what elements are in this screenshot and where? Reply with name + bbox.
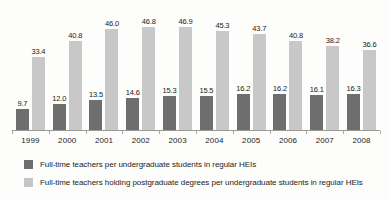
bar-value-label: 36.6 xyxy=(363,40,377,49)
bar-column: 33.4 xyxy=(32,6,45,130)
bar-value-label: 16.3 xyxy=(347,84,361,93)
bar-value-label: 16.2 xyxy=(273,84,287,93)
bar-value-label: 46.0 xyxy=(105,19,119,28)
legend-item-label: Full-time teachers holding postgraduate … xyxy=(40,178,363,187)
x-axis-tick-labels: 1999200020012002200320042005200620072008 xyxy=(12,134,380,148)
bar-group: 16.138.2 xyxy=(306,6,343,130)
chart-legend: Full-time teachers per undergraduate stu… xyxy=(24,155,384,191)
bar-value-label: 12.0 xyxy=(52,94,66,103)
bar-group: 12.040.8 xyxy=(49,6,86,130)
bar-group: 13.546.0 xyxy=(86,6,123,130)
bar[interactable] xyxy=(347,94,360,130)
x-axis-tick-label: 2001 xyxy=(86,134,123,148)
bar-column: 16.1 xyxy=(310,6,323,130)
bar[interactable] xyxy=(142,27,155,130)
x-axis-tick-label: 2004 xyxy=(196,134,233,148)
bar[interactable] xyxy=(253,34,266,130)
bar[interactable] xyxy=(126,98,139,130)
bar[interactable] xyxy=(310,95,323,130)
bar-column: 36.6 xyxy=(363,6,376,130)
x-axis-tick-label: 2005 xyxy=(233,134,270,148)
bar[interactable] xyxy=(237,94,250,130)
axis-tick-mark xyxy=(380,131,381,134)
bar-value-label: 9.7 xyxy=(17,99,27,108)
bar-column: 16.2 xyxy=(273,6,286,130)
bar-group: 15.545.3 xyxy=(196,6,233,130)
bar-value-label: 14.6 xyxy=(126,88,140,97)
bar[interactable] xyxy=(89,100,102,130)
bar-group: 15.346.9 xyxy=(159,6,196,130)
bar-value-label: 38.2 xyxy=(326,36,340,45)
legend-item-label: Full-time teachers per undergraduate stu… xyxy=(40,160,256,169)
bar-column: 40.8 xyxy=(289,6,302,130)
bar[interactable] xyxy=(273,94,286,130)
bar-group: 16.243.7 xyxy=(233,6,270,130)
legend-item-1[interactable]: Full-time teachers holding postgraduate … xyxy=(24,173,384,191)
bar[interactable] xyxy=(16,109,29,130)
bar-column: 16.3 xyxy=(347,6,360,130)
bar-column: 38.2 xyxy=(326,6,339,130)
x-axis-tick-label: 2008 xyxy=(343,134,380,148)
bar-value-label: 16.1 xyxy=(310,85,324,94)
bar[interactable] xyxy=(179,27,192,130)
bar-chart: 9.733.412.040.813.546.014.646.815.346.91… xyxy=(0,0,389,199)
x-axis-tick-label: 2003 xyxy=(159,134,196,148)
bar-column: 12.0 xyxy=(53,6,66,130)
x-axis-tick-label: 2006 xyxy=(270,134,307,148)
bar-column: 15.3 xyxy=(163,6,176,130)
bar-value-label: 45.3 xyxy=(215,21,229,30)
bar-value-label: 43.7 xyxy=(252,24,266,33)
bar-column: 14.6 xyxy=(126,6,139,130)
legend-swatch-icon xyxy=(24,160,33,169)
bar[interactable] xyxy=(326,46,339,130)
bar[interactable] xyxy=(53,104,66,130)
bar-value-label: 40.8 xyxy=(289,31,303,40)
bar-value-label: 46.8 xyxy=(142,17,156,26)
bar[interactable] xyxy=(216,31,229,130)
bar-value-label: 16.2 xyxy=(236,84,250,93)
bar[interactable] xyxy=(289,41,302,130)
bar-column: 15.5 xyxy=(200,6,213,130)
bar-column: 16.2 xyxy=(237,6,250,130)
x-axis-tick-label: 2002 xyxy=(122,134,159,148)
bar-value-label: 46.9 xyxy=(179,17,193,26)
bar-value-label: 13.5 xyxy=(89,90,103,99)
bar-group: 16.240.8 xyxy=(270,6,307,130)
bar-column: 9.7 xyxy=(16,6,29,130)
bar-value-label: 40.8 xyxy=(68,31,82,40)
bar-column: 46.0 xyxy=(105,6,118,130)
bar-column: 43.7 xyxy=(253,6,266,130)
bar[interactable] xyxy=(105,29,118,130)
bar-column: 40.8 xyxy=(69,6,82,130)
x-axis-tick-label: 2000 xyxy=(49,134,86,148)
bar-column: 46.9 xyxy=(179,6,192,130)
bar[interactable] xyxy=(32,57,45,130)
bar[interactable] xyxy=(363,50,376,130)
bar[interactable] xyxy=(69,41,82,130)
bar-value-label: 15.5 xyxy=(199,86,213,95)
bar-group: 9.733.4 xyxy=(12,6,49,130)
bar-group: 16.336.6 xyxy=(343,6,380,130)
bar-column: 46.8 xyxy=(142,6,155,130)
x-axis-tick-label: 2007 xyxy=(306,134,343,148)
bar-value-label: 15.3 xyxy=(163,86,177,95)
legend-item-0[interactable]: Full-time teachers per undergraduate stu… xyxy=(24,155,384,173)
plot-area: 9.733.412.040.813.546.014.646.815.346.91… xyxy=(12,6,380,131)
legend-swatch-icon xyxy=(24,178,33,187)
x-axis-tick-label: 1999 xyxy=(12,134,49,148)
bar[interactable] xyxy=(163,96,176,130)
bar-value-label: 33.4 xyxy=(31,47,45,56)
bar-groups: 9.733.412.040.813.546.014.646.815.346.91… xyxy=(12,6,380,130)
bar-column: 13.5 xyxy=(89,6,102,130)
bar-column: 45.3 xyxy=(216,6,229,130)
bar[interactable] xyxy=(200,96,213,130)
bar-group: 14.646.8 xyxy=(122,6,159,130)
